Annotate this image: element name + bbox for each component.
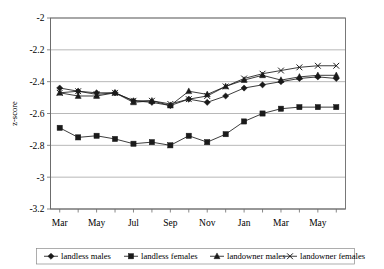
data-point-marker [223, 93, 229, 99]
data-point-marker [260, 72, 266, 78]
data-point-marker [259, 82, 265, 88]
chart-legend: landless maleslandless femaleslandowner … [37, 249, 366, 265]
y-tick-marks [47, 18, 51, 209]
data-point-marker [278, 106, 283, 111]
y-axis-title-text: z-score [9, 101, 19, 126]
data-point-marker [168, 143, 173, 148]
y-tick-label: -2.8 [29, 141, 44, 151]
data-point-marker [241, 85, 247, 91]
x-tick-label: Sep [163, 218, 178, 228]
x-axis-tick-labels: MarMayJulSepNovJanMarMay [52, 218, 327, 228]
series-landowner-females [57, 63, 339, 107]
x-tick-label: May [88, 218, 106, 228]
line-chart: -2-2.2-2.4-2.6-2.8-3-3.2 MarMayJulSepNov… [0, 0, 384, 269]
data-point-marker [186, 133, 191, 138]
data-point-marker [315, 105, 320, 110]
y-axis-tick-labels: -2-2.2-2.4-2.6-2.8-3-3.2 [29, 13, 44, 214]
data-point-marker [131, 141, 136, 146]
y-axis-title: z-score [9, 101, 19, 126]
x-tick-marks [60, 209, 337, 213]
x-tick-label: Jan [238, 218, 251, 228]
data-point-marker [205, 140, 210, 145]
data-point-marker [204, 99, 210, 105]
x-tick-label: Mar [52, 218, 69, 228]
data-point-marker [334, 105, 339, 110]
series-landowner-males [57, 72, 340, 108]
y-tick-label: -2.2 [29, 45, 44, 55]
y-tick-label: -2 [37, 13, 45, 23]
x-tick-label: May [309, 218, 327, 228]
data-point-marker [57, 125, 62, 130]
series-line [60, 77, 337, 106]
legend-item-label: landless males [61, 251, 112, 261]
data-point-marker [76, 135, 81, 140]
data-point-marker [241, 119, 246, 124]
y-tick-label: -3 [37, 173, 45, 183]
series-line [60, 66, 337, 104]
chart-container: -2-2.2-2.4-2.6-2.8-3-3.2 MarMayJulSepNov… [0, 0, 384, 269]
series-line [60, 107, 337, 145]
x-tick-label: Mar [273, 218, 290, 228]
data-point-marker [297, 105, 302, 110]
data-series-group [57, 63, 340, 148]
data-point-marker [260, 111, 265, 116]
x-tick-label: Jul [128, 218, 139, 228]
series-landless-females [57, 105, 339, 148]
data-point-marker [94, 133, 99, 138]
y-tick-label: -2.6 [29, 109, 44, 119]
legend-item-label: landowner females [300, 251, 366, 261]
x-tick-label: Nov [199, 218, 216, 228]
data-point-marker [223, 132, 228, 137]
data-point-marker [186, 88, 192, 94]
y-tick-label: -3.2 [29, 204, 44, 214]
data-point-marker [149, 140, 154, 145]
legend-item-label: landowner males [227, 251, 286, 261]
legend-item-label: landless females [141, 251, 198, 261]
data-point-marker [333, 72, 339, 78]
data-point-marker [128, 254, 133, 259]
data-point-marker [315, 72, 321, 78]
data-point-marker [112, 136, 117, 141]
y-tick-label: -2.4 [29, 77, 44, 87]
